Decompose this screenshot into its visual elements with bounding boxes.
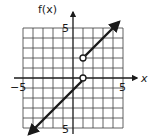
x-tick-neg5: −5	[10, 82, 26, 93]
open-circle-upper	[80, 55, 86, 61]
y-tick-pos5: 5	[62, 23, 69, 34]
x-tick-pos5: 5	[119, 82, 126, 93]
open-circle-lower	[80, 75, 86, 81]
y-axis-label: f(x)	[38, 4, 57, 15]
left-piece-line	[29, 81, 82, 134]
x-axis-label: x	[141, 73, 148, 84]
y-tick-neg5: 5	[62, 124, 69, 135]
graph-canvas	[0, 0, 155, 138]
right-piece-line	[86, 22, 120, 56]
